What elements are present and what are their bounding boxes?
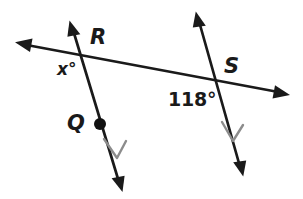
- left-line-bottom-arrowhead: [112, 176, 125, 192]
- angle-label-x: x°: [57, 61, 76, 78]
- transversal-right-arrowhead: [273, 85, 291, 98]
- point-label-s: S: [224, 56, 239, 77]
- geometry-figure: R S Q x° 118°: [0, 0, 303, 199]
- angle-label-118: 118°: [168, 90, 216, 109]
- right-line-bottom-arrowhead: [233, 160, 246, 176]
- left-line-top-arrowhead: [67, 21, 80, 37]
- transversal-left-arrowhead: [15, 39, 33, 52]
- point-q-dot: [94, 118, 106, 130]
- right-line-parallel-mark-icon: [222, 122, 243, 141]
- point-label-q: Q: [67, 113, 85, 134]
- left-line-parallel-mark-icon: [104, 139, 126, 158]
- geometry-canvas: [0, 0, 303, 199]
- point-label-r: R: [90, 27, 106, 48]
- right-line-top-arrowhead: [193, 12, 206, 28]
- left-line-segment: [74, 32, 119, 181]
